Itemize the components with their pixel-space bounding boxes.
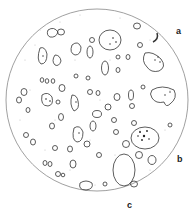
label-b: b (177, 154, 183, 164)
label-a: a (176, 26, 181, 36)
label-c: c (127, 200, 132, 210)
cells (17, 23, 176, 190)
microscope-field (0, 0, 195, 218)
field-boundary (6, 9, 188, 191)
